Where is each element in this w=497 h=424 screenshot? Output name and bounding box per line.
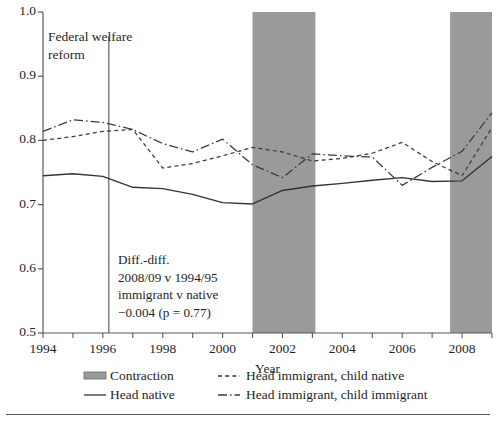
x-tick-label-0: 1994 bbox=[20, 341, 66, 357]
y-tick-label-4: 0.9 bbox=[2, 67, 36, 83]
x-tick-label-4: 2002 bbox=[259, 341, 305, 357]
x-tick-label-5: 2004 bbox=[319, 341, 365, 357]
annotation-federal-welfare-reform: Federal welfarereform bbox=[48, 28, 132, 64]
contraction-band-0 bbox=[253, 12, 316, 333]
legend-label-contraction: Contraction bbox=[110, 368, 174, 384]
y-tick-label-1: 0.6 bbox=[2, 260, 36, 276]
y-tick-label-5: 1.0 bbox=[2, 3, 36, 19]
x-tick-label-2: 1998 bbox=[140, 341, 186, 357]
y-tick-label-3: 0.8 bbox=[2, 131, 36, 147]
legend-label-head-native: Head native bbox=[110, 387, 175, 403]
annotation-diff-in-diff-line-3: −0.004 (p = 0.77) bbox=[118, 304, 218, 322]
x-tick-label-7: 2008 bbox=[439, 341, 485, 357]
annotation-federal-welfare-reform-line-1: reform bbox=[48, 46, 132, 64]
annotation-diff-in-diff-line-2: immigrant v native bbox=[118, 286, 218, 304]
legend-swatch-contraction bbox=[84, 372, 106, 379]
footer-divider bbox=[6, 414, 490, 415]
x-tick-label-6: 2006 bbox=[379, 341, 425, 357]
x-tick-label-1: 1996 bbox=[80, 341, 126, 357]
annotation-federal-welfare-reform-line-0: Federal welfare bbox=[48, 28, 132, 46]
x-tick-label-3: 2000 bbox=[200, 341, 246, 357]
y-tick-label-0: 0.5 bbox=[2, 324, 36, 340]
y-tick-label-2: 0.7 bbox=[2, 196, 36, 212]
annotation-diff-in-diff-line-0: Diff.-diff. bbox=[118, 251, 218, 269]
annotation-diff-in-diff-line-1: 2008/09 v 1994/95 bbox=[118, 269, 218, 287]
legend-label-head-immigrant-child-immigrant: Head immigrant, child immigrant bbox=[246, 387, 427, 403]
chart-figure: 0.50.60.70.80.91.01994199619982000200220… bbox=[0, 0, 497, 424]
legend-label-head-immigrant-child-native: Head immigrant, child native bbox=[246, 368, 404, 384]
annotation-diff-in-diff: Diff.-diff.2008/09 v 1994/95immigrant v … bbox=[118, 251, 218, 322]
